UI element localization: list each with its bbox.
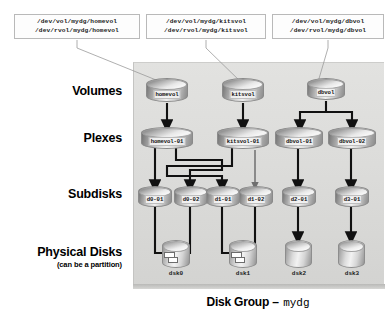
subdisk-node-d2-01[interactable]: d2-01 [282, 186, 316, 207]
panel-shadow [133, 284, 385, 289]
figure-root: /dev/vol/mydg/homevol /dev/rvol/mydg/hom… [0, 0, 389, 314]
plex-label-homevol-01: homevol-01 [149, 137, 186, 146]
volume-label-kitsvol: kitsvol [230, 90, 257, 99]
physical-disk-caption-dsk1: dsk1 [219, 270, 267, 277]
subdisk-node-d0-02[interactable]: d0-02 [174, 186, 208, 207]
device-path-raw-kitsvol: /dev/rvol/mydg/kitsvol [150, 26, 262, 35]
row-label-physical-disks-subtext: (can be a partition) [0, 260, 122, 269]
subdisk-node-d1-02[interactable]: d1-02 [239, 186, 273, 207]
row-label-volumes-text: Volumes [72, 84, 122, 98]
plex-node-dbvol-02[interactable]: dbvol-02 [328, 127, 376, 149]
subdisk-label-d2-01: d2-01 [289, 195, 309, 204]
volume-node-dbvol[interactable]: dbvol [307, 78, 345, 100]
physical-disk-caption-dsk2: dsk2 [275, 270, 323, 277]
disk-slot-lower [168, 257, 178, 263]
disk-slot-lower [235, 257, 245, 263]
physical-disk-node-dsk3[interactable] [338, 240, 365, 268]
physical-disk-caption-dsk0: dsk0 [152, 270, 200, 277]
row-label-plexes-text: Plexes [84, 131, 122, 145]
plex-label-dbvol-02: dbvol-02 [337, 137, 367, 146]
device-path-block-kitsvol: /dev/vol/mydg/kitsvol [150, 17, 262, 26]
subdisk-label-d1-02: d1-02 [246, 195, 266, 204]
device-path-block-dbvol: /dev/vol/mydg/dbvol [276, 17, 380, 26]
row-label-subdisks-text: Subdisks [68, 187, 122, 201]
plex-label-kitsvol-01: kitsvol-01 [225, 137, 262, 146]
device-path-raw-homevol: /dev/rvol/mydg/homevol [18, 26, 136, 35]
device-path-raw-dbvol: /dev/rvol/mydg/dbvol [276, 26, 380, 35]
figure-caption-name: mydg [283, 297, 309, 309]
physical-disk-node-dsk1[interactable] [229, 240, 257, 268]
row-label-plexes: Plexes [0, 131, 122, 145]
subdisk-node-d1-01[interactable]: d1-01 [206, 186, 240, 207]
cylinder-top [147, 79, 187, 90]
volume-node-kitsvol[interactable]: kitsvol [222, 78, 264, 102]
plex-node-homevol-01[interactable]: homevol-01 [141, 127, 193, 149]
figure-caption-prefix: Disk Group – [206, 295, 278, 309]
row-label-physical-disks-text: Physical Disks [37, 245, 122, 259]
subdisk-label-d0-02: d0-02 [181, 195, 201, 204]
volume-label-homevol: homevol [154, 90, 181, 99]
plex-label-dbvol-01: dbvol-01 [284, 137, 314, 146]
volume-label-dbvol: dbvol [316, 88, 336, 97]
physical-disk-node-dsk2[interactable] [285, 240, 312, 268]
subdisk-node-d0-01[interactable]: d0-01 [138, 186, 172, 207]
plex-node-kitsvol-01[interactable]: kitsvol-01 [217, 127, 269, 149]
subdisk-node-d3-01[interactable]: d3-01 [335, 186, 369, 207]
plex-node-dbvol-01[interactable]: dbvol-01 [275, 127, 323, 149]
subdisk-label-d3-01: d3-01 [342, 195, 362, 204]
cylinder-top [223, 79, 263, 90]
device-path-box-dbvol: /dev/vol/mydg/dbvol /dev/rvol/mydg/dbvol [272, 14, 384, 39]
subdisk-label-d0-01: d0-01 [145, 195, 165, 204]
row-label-subdisks: Subdisks [0, 187, 122, 201]
physical-disk-node-dsk0[interactable] [162, 240, 190, 268]
device-path-box-homevol: /dev/vol/mydg/homevol /dev/rvol/mydg/hom… [14, 14, 140, 39]
row-label-physical-disks: Physical Disks (can be a partition) [0, 245, 122, 269]
row-label-volumes: Volumes [0, 84, 122, 98]
volume-node-homevol[interactable]: homevol [146, 78, 188, 102]
figure-caption: Disk Group – mydg [133, 292, 383, 310]
physical-disk-caption-dsk3: dsk3 [328, 270, 376, 277]
device-path-block-homevol: /dev/vol/mydg/homevol [18, 17, 136, 26]
device-path-box-kitsvol: /dev/vol/mydg/kitsvol /dev/rvol/mydg/kit… [146, 14, 266, 39]
subdisk-label-d1-01: d1-01 [213, 195, 233, 204]
